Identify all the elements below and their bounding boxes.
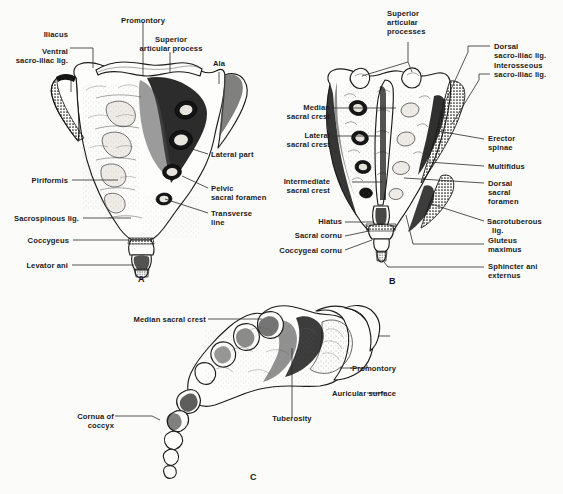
label-erector-spinae-line1: Erector <box>488 134 515 143</box>
label-dorsal-sacral-foramen-line3: foramen <box>488 197 519 206</box>
label-dorsal-sacroiliac-lig-line1: Dorsal <box>494 42 518 51</box>
label-ventral-sacroiliac-lig-line2: sacro-iliac lig. <box>0 56 68 65</box>
label-tuberosity: Tuberosity <box>252 414 332 423</box>
label-piriformis: Piriformis <box>0 176 68 185</box>
label-gluteus-maximus-line1: Gluteus <box>488 236 517 245</box>
label-dorsal-sacroiliac-lig-line2: sacro-iliac lig. <box>494 51 546 60</box>
label-sphincter-ani-externus-line2: externus <box>488 271 520 280</box>
coccyx-anterior <box>128 238 154 278</box>
label-coccygeal-cornu: Coccygeal cornu <box>250 246 342 255</box>
label-median-sacral-crest-b-line1: Median <box>258 103 330 112</box>
panel-letter-c: C <box>250 472 257 482</box>
label-intermediate-sacral-crest-line1: Intermediate <box>254 177 330 186</box>
label-dorsal-sacral-foramen-line2: sacral <box>488 188 511 197</box>
label-cornua-of-coccyx-line1: Cornua of <box>52 412 114 421</box>
label-sacrotuberous-lig-line2: lig. <box>492 226 503 235</box>
label-promontory-a: Promontory <box>103 16 183 25</box>
label-hiatus: Hiatus <box>270 217 342 226</box>
label-coccygeus: Coccygeus <box>0 236 69 245</box>
label-gluteus-maximus-line2: maximus <box>488 245 522 254</box>
label-levator-ani: Levator ani <box>0 261 68 270</box>
label-interosseous-sacroiliac-lig-line2: sacro-iliac lig. <box>494 70 546 79</box>
label-superior-articular-processes-line1: Superior <box>387 9 419 18</box>
panel-letter-a: A <box>138 274 145 284</box>
label-intermediate-sacral-crest-line2: sacral crest <box>254 186 330 195</box>
label-transverse-line-line1: Transverse <box>211 209 252 218</box>
label-cornua-of-coccyx-line2: coccyx <box>52 421 114 430</box>
label-dorsal-sacral-foramen-line1: Dorsal <box>488 179 512 188</box>
label-ventral-sacroiliac-lig-line1: Ventral <box>0 47 68 56</box>
label-superior-articular-process-line2: articular process <box>128 44 214 53</box>
label-sacral-cornu: Sacral cornu <box>262 231 342 240</box>
label-promontory-c: Promontory <box>352 364 396 373</box>
coccyx-lateral <box>163 390 200 479</box>
label-interosseous-sacroiliac-lig-line1: Interosseous <box>494 61 542 70</box>
label-median-sacral-crest-c: Median sacral crest <box>120 315 206 324</box>
label-median-sacral-crest-b-line2: sacral crest <box>258 112 330 121</box>
panel-letter-b: B <box>389 276 396 286</box>
panel-b-illustration <box>327 42 490 267</box>
label-multifidus: Multifidus <box>488 162 525 171</box>
label-superior-articular-processes-line2: articular <box>387 18 418 27</box>
label-sacrospinous-lig: Sacrospinous lig. <box>0 214 79 223</box>
label-ala: Ala <box>196 59 242 68</box>
label-iliacus: Iliacus <box>6 30 68 39</box>
label-transverse-line-line2: line <box>211 218 224 227</box>
label-superior-articular-process-line1: Superior <box>128 35 214 44</box>
label-lateral-sacral-crest-line2: sacral crest <box>258 140 330 149</box>
label-sacrotuberous-lig-line1: Sacrotuberous <box>487 217 542 226</box>
label-erector-spinae-line2: spinae <box>488 143 513 152</box>
label-pelvic-sacral-foramen-line1: Pelvic <box>211 184 234 193</box>
label-lateral-part: Lateral part <box>211 150 254 159</box>
label-lateral-sacral-crest-line1: Lateral <box>258 131 330 140</box>
label-superior-articular-processes-line3: processes <box>387 27 425 36</box>
label-sphincter-ani-externus-line1: Sphincter ani <box>488 262 537 271</box>
label-auricular-surface: Auricular surface <box>332 389 396 398</box>
